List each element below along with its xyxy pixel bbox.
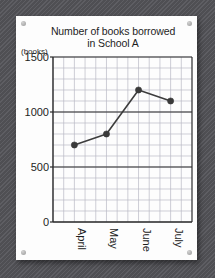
chart-axes xyxy=(53,57,192,222)
x-tick-label: July xyxy=(173,228,185,248)
screenshot-scene: Number of books borrowed in School A (bo… xyxy=(0,0,215,278)
x-tick-label: April xyxy=(76,228,88,250)
y-tick-label: 1500 xyxy=(25,51,49,63)
data-point-marker xyxy=(135,87,141,93)
minor-gridlines xyxy=(53,57,192,222)
y-axis-tick-labels: 050010001500 xyxy=(25,51,53,228)
chart-card: Number of books borrowed in School A (bo… xyxy=(16,16,197,260)
line-chart: 050010001500 AprilMayJuneJuly xyxy=(16,16,197,260)
major-gridlines xyxy=(53,112,192,167)
x-tick-label: June xyxy=(141,228,153,252)
x-axis-tick-labels: AprilMayJuneJuly xyxy=(76,228,184,252)
x-tick-label: May xyxy=(108,228,120,249)
data-point-marker xyxy=(103,131,109,137)
y-tick-label: 500 xyxy=(31,161,49,173)
data-series-school-a xyxy=(71,87,173,148)
data-point-marker xyxy=(168,98,174,104)
y-tick-label: 1000 xyxy=(25,106,49,118)
data-point-marker xyxy=(71,142,77,148)
y-tick-label: 0 xyxy=(43,216,49,228)
